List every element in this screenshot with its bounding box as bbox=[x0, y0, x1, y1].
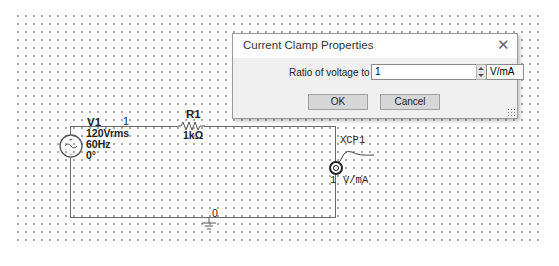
close-icon[interactable]: ✕ bbox=[495, 36, 511, 54]
clamp-ref: XCP1 bbox=[340, 135, 365, 146]
svg-text:+: + bbox=[69, 136, 73, 142]
clamp-ratio-value: 1 bbox=[330, 175, 336, 186]
resize-grip-icon[interactable] bbox=[507, 108, 515, 116]
resistor-ref: R1 bbox=[186, 109, 201, 120]
current-clamp-properties-dialog: Current Clamp Properties ✕ Ratio of volt… bbox=[232, 33, 518, 119]
source-phase: 0° bbox=[86, 150, 96, 161]
svg-text:−: − bbox=[70, 151, 74, 157]
node-label-0: 0 bbox=[212, 208, 218, 219]
wire-left-bottom[interactable] bbox=[70, 158, 71, 218]
clamp-ratio-unit: V/mA bbox=[343, 175, 368, 186]
spin-down-icon[interactable] bbox=[478, 74, 484, 77]
dialog-title: Current Clamp Properties bbox=[243, 39, 373, 51]
ratio-input[interactable]: 1 bbox=[371, 64, 479, 80]
cancel-button[interactable]: Cancel bbox=[380, 94, 440, 110]
dialog-title-bar[interactable]: Current Clamp Properties ✕ bbox=[233, 34, 517, 58]
ground-icon[interactable] bbox=[201, 217, 217, 231]
unit-field[interactable]: V/mA bbox=[486, 64, 524, 80]
wire-top-right[interactable] bbox=[204, 126, 336, 127]
spin-up-icon[interactable] bbox=[478, 67, 484, 70]
current-clamp-icon[interactable] bbox=[328, 150, 376, 176]
resistor-value: 1kΩ bbox=[183, 130, 203, 141]
node-label-1: 1 bbox=[123, 116, 129, 127]
ok-button[interactable]: OK bbox=[308, 94, 368, 110]
ac-source-icon[interactable]: + − bbox=[58, 133, 84, 159]
